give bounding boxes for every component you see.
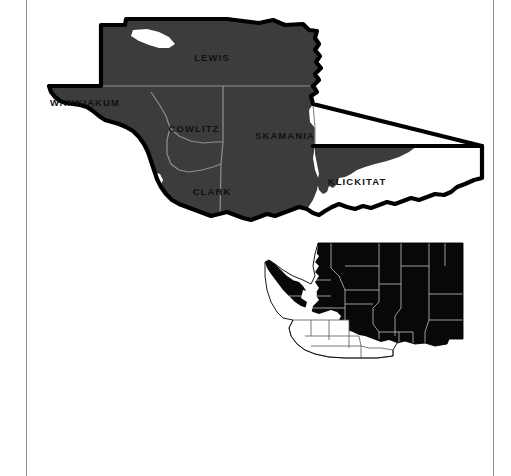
county-label-skamania: SKAMANIA xyxy=(240,130,330,141)
southwest-washington-counties-svg xyxy=(27,4,493,234)
county-label-lewis: LEWIS xyxy=(177,52,247,63)
main-map: LEWIS WAHKIAKUM COWLITZ SKAMANIA CLARK K… xyxy=(27,4,493,234)
map-figure: LEWIS WAHKIAKUM COWLITZ SKAMANIA CLARK K… xyxy=(27,0,493,476)
washington-state-locator-svg xyxy=(249,236,479,364)
inset-locator-map xyxy=(249,236,479,364)
county-label-clark: CLARK xyxy=(177,186,247,197)
county-label-klickitat: KLICKITAT xyxy=(310,176,404,187)
county-label-cowlitz: COWLITZ xyxy=(154,123,234,134)
page-right-margin-rule xyxy=(493,0,494,476)
olympic-peninsula-coast-cut xyxy=(273,304,289,320)
county-label-wahkiakum: WAHKIAKUM xyxy=(35,97,135,108)
